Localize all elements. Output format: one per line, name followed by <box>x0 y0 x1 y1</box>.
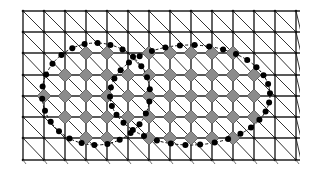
right-ellipse-dot <box>121 120 127 126</box>
diagonal-line <box>44 11 65 32</box>
grid-vertex <box>190 31 193 34</box>
grid-vertex <box>295 31 298 34</box>
diagonal-line <box>296 117 301 138</box>
left-ellipse-dot <box>67 135 73 141</box>
grid-vertex <box>274 95 277 98</box>
diagonal-line <box>275 11 296 32</box>
grid-vertex <box>295 10 298 13</box>
grid-vertex <box>22 137 25 140</box>
right-ellipse-dot <box>244 57 250 63</box>
right-ellipse-dot <box>266 100 272 106</box>
grid-vertex <box>127 137 130 140</box>
diagonal-line <box>296 96 301 117</box>
right-ellipse-dot <box>256 117 262 123</box>
right-ellipse-dot <box>137 53 143 59</box>
grid-vertex <box>295 95 298 98</box>
diagonal-line <box>275 75 296 96</box>
right-ellipse-dot <box>126 60 132 66</box>
left-ellipse-dot <box>91 142 97 148</box>
right-ellipse-dot <box>206 44 212 50</box>
left-ellipse-dot <box>40 83 46 89</box>
left-ellipse-dot <box>144 74 150 80</box>
right-ellipse-dot <box>130 127 136 133</box>
diagonal-line <box>23 32 44 53</box>
right-ellipse-dot <box>212 140 218 146</box>
grid-vertex <box>148 31 151 34</box>
diagonal-line <box>65 11 86 32</box>
right-ellipse-dot <box>267 90 273 96</box>
grid-vertex <box>274 31 277 34</box>
left-ellipse-dot <box>104 141 110 147</box>
grid-vertex <box>169 31 172 34</box>
diagonal-line <box>296 75 301 96</box>
diagonal-line <box>275 32 296 53</box>
diagonal-line <box>23 117 44 138</box>
grid-vertex <box>148 10 151 13</box>
grid-vertex <box>85 31 88 34</box>
right-ellipse-dot <box>177 42 183 48</box>
left-ellipse-dot <box>58 52 64 58</box>
diagonal-line <box>149 11 170 32</box>
grid-vertex <box>274 74 277 77</box>
grid-vertex <box>43 52 46 55</box>
right-ellipse-dot <box>254 64 260 70</box>
right-ellipse-dot <box>197 142 203 148</box>
right-ellipse-dot <box>265 81 271 87</box>
right-ellipse-dot <box>263 108 269 114</box>
grid-vertex <box>211 10 214 13</box>
diagonal-line <box>44 138 65 160</box>
grid-vertex <box>274 52 277 55</box>
left-ellipse-dot <box>120 47 126 53</box>
right-ellipse-dot <box>182 142 188 148</box>
grid-vertex <box>22 116 25 119</box>
grid-vertex <box>211 31 214 34</box>
grid-vertex <box>253 10 256 13</box>
diagonal-line <box>191 11 212 32</box>
grid-lines <box>22 10 300 162</box>
grid-vertex <box>232 10 235 13</box>
grid-vertex <box>106 31 109 34</box>
grid-vertex <box>295 137 298 140</box>
grid-vertex <box>232 31 235 34</box>
diagonal-line <box>23 11 44 32</box>
grid-vertex <box>85 10 88 13</box>
grid-vertex <box>295 74 298 77</box>
diagonal-line <box>86 11 107 32</box>
left-ellipse-dot <box>39 96 45 102</box>
diagonal-line <box>296 11 301 32</box>
left-ellipse-dot <box>48 119 54 125</box>
right-ellipse-dot <box>149 48 155 54</box>
diagonal-line <box>107 11 128 32</box>
right-ellipse-dot <box>192 42 198 48</box>
right-ellipse-dot <box>237 131 243 137</box>
right-ellipse-dot <box>141 133 147 139</box>
diagonal-line <box>233 11 254 32</box>
left-ellipse-dot <box>82 41 88 47</box>
grid-vertex <box>274 137 277 140</box>
grid-vertex <box>274 10 277 13</box>
right-ellipse-dot <box>111 76 117 82</box>
diagonal-line <box>23 138 44 160</box>
grid-vertex <box>64 31 67 34</box>
grid-vertex <box>43 10 46 13</box>
left-ellipse-dot <box>107 42 113 48</box>
left-ellipse-dot <box>56 128 62 134</box>
grid-vertex <box>22 10 25 13</box>
right-ellipse-dot <box>108 85 114 91</box>
grid-vertex <box>22 31 25 34</box>
right-ellipse-dot <box>154 138 160 144</box>
right-ellipse-dot <box>233 51 239 57</box>
left-ellipse-dot <box>50 61 56 67</box>
grid-vertex <box>190 10 193 13</box>
diagonal-line <box>296 138 301 160</box>
diagonal-line <box>212 11 233 32</box>
diagonal-line <box>275 138 296 160</box>
right-ellipse-dot <box>118 67 124 73</box>
right-ellipse-dot <box>248 124 254 130</box>
left-ellipse-dot <box>43 72 49 78</box>
diagonal-line <box>275 53 296 75</box>
grid-vertex <box>127 31 130 34</box>
left-ellipse-dot <box>147 86 153 92</box>
grid-vertex <box>253 31 256 34</box>
diagonal-line <box>254 138 275 160</box>
